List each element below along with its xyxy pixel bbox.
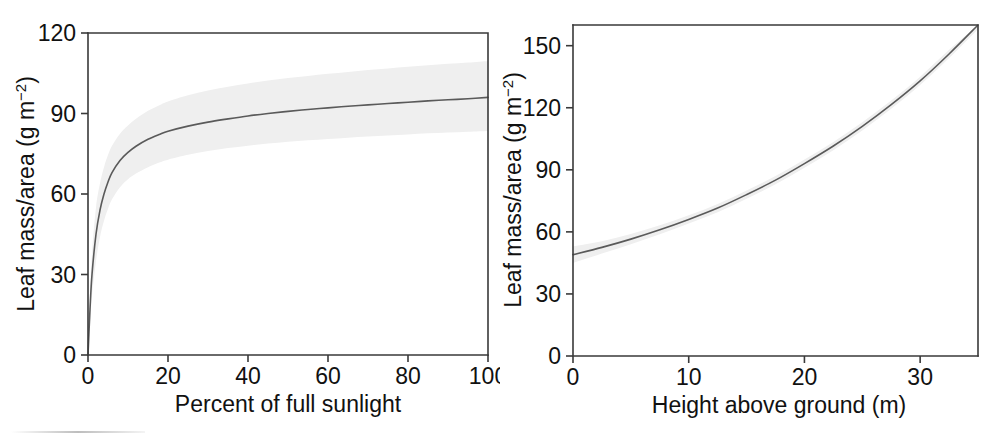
- right-y-axis-label: Leaf mass/area (g m−2): [499, 72, 526, 308]
- right-plot-band: [573, 25, 978, 263]
- x-tick-label: 0: [82, 363, 95, 389]
- y-tick-label: 90: [535, 157, 561, 183]
- left-x-axis-label: Percent of full sunlight: [175, 391, 402, 417]
- y-tick-label: 150: [523, 33, 561, 59]
- right-x-axis-label: Height above ground (m): [652, 392, 906, 418]
- right-x-tick-labels: 0102030: [567, 364, 933, 390]
- x-tick-label: 10: [676, 364, 702, 390]
- x-tick-label: 100: [469, 363, 500, 389]
- x-tick-label: 40: [235, 363, 261, 389]
- y-tick-label: 60: [50, 181, 76, 207]
- x-tick-label: 30: [907, 364, 933, 390]
- left-y-axis-label: Leaf mass/area (g m−2): [12, 76, 39, 312]
- y-tick-label: 120: [523, 95, 561, 121]
- y-tick-label: 60: [535, 219, 561, 245]
- chart-panel-right: 0306090120150 0102030 Height above groun…: [499, 0, 999, 437]
- left-plot-band: [88, 61, 488, 355]
- x-tick-label: 20: [792, 364, 818, 390]
- right-axes: [566, 25, 978, 363]
- y-tick-label: 0: [63, 342, 76, 368]
- chart-panel-left: 0306090120 020406080100 Percent of full …: [0, 0, 500, 437]
- x-tick-label: 60: [315, 363, 341, 389]
- scan-artifact-line: [11, 431, 145, 433]
- x-tick-label: 0: [567, 364, 580, 390]
- y-tick-label: 0: [548, 343, 561, 369]
- x-tick-label: 20: [155, 363, 181, 389]
- left-x-tick-labels: 020406080100: [82, 363, 500, 389]
- figure-two-panel-chart: 0306090120 020406080100 Percent of full …: [0, 0, 999, 437]
- left-y-tick-labels: 0306090120: [38, 20, 76, 368]
- right-y-tick-labels: 0306090120150: [523, 33, 561, 369]
- y-tick-label: 120: [38, 20, 76, 46]
- right-plot-curve: [573, 25, 978, 255]
- x-tick-label: 80: [395, 363, 421, 389]
- y-tick-label: 30: [50, 262, 76, 288]
- y-tick-label: 90: [50, 101, 76, 127]
- y-tick-label: 30: [535, 281, 561, 307]
